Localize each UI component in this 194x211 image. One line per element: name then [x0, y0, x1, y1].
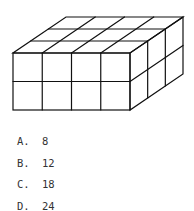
option-d[interactable]: D. 24 — [17, 196, 55, 211]
answer-options: A. 8 B. 12 C. 18 D. 24 — [17, 131, 55, 210]
option-label: D. — [17, 196, 42, 211]
option-value: 8 — [42, 131, 48, 153]
option-a[interactable]: A. 8 — [17, 131, 55, 153]
option-c[interactable]: C. 18 — [17, 174, 55, 196]
option-b[interactable]: B. 12 — [17, 153, 55, 175]
option-value: 24 — [42, 196, 55, 211]
option-label: B. — [17, 153, 42, 175]
option-value: 12 — [42, 153, 55, 175]
option-label: A. — [17, 131, 42, 153]
option-label: C. — [17, 174, 42, 196]
cube-stack-figure — [0, 0, 194, 120]
option-value: 18 — [42, 174, 55, 196]
